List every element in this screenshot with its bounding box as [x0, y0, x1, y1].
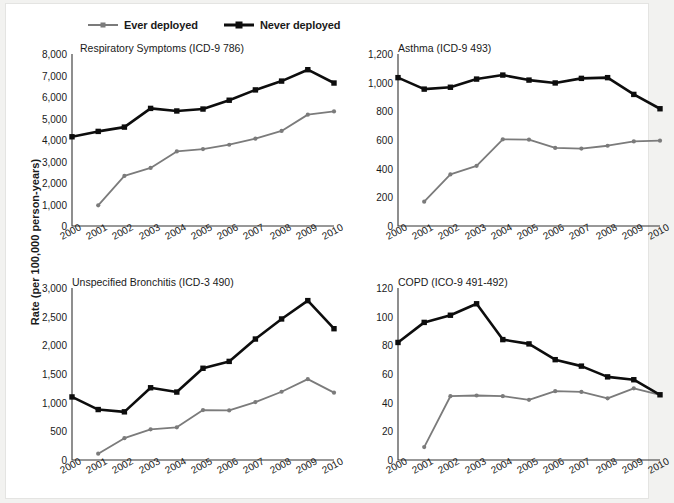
data-point-marker — [305, 298, 310, 303]
data-point-marker — [305, 67, 310, 72]
data-point-marker — [331, 80, 336, 85]
legend-item-never-deployed: Never deployed — [224, 19, 341, 31]
data-point-marker — [605, 374, 610, 379]
data-point-marker — [422, 200, 426, 204]
data-point-marker — [332, 109, 336, 113]
data-point-marker — [69, 134, 74, 139]
axis-lines — [398, 288, 660, 460]
data-point-marker — [606, 396, 610, 400]
data-point-marker — [122, 124, 127, 129]
data-point-marker — [553, 80, 558, 85]
data-point-marker — [306, 377, 310, 381]
data-point-marker — [631, 377, 636, 382]
data-point-marker — [96, 452, 100, 456]
legend-label-never-deployed: Never deployed — [260, 19, 341, 31]
chart-legend: Ever deployed Never deployed — [6, 14, 648, 36]
data-point-marker — [500, 337, 505, 342]
series-line — [424, 388, 660, 447]
series-line — [72, 301, 334, 412]
panel-title: COPD (ICO-9 491-492) — [398, 276, 508, 288]
data-point-marker — [148, 106, 153, 111]
data-point-marker — [306, 113, 310, 117]
data-point-marker — [149, 427, 153, 431]
data-point-marker — [122, 409, 127, 414]
data-point-marker — [448, 85, 453, 90]
data-point-marker — [148, 385, 153, 390]
data-point-marker — [69, 394, 74, 399]
data-point-marker — [175, 425, 179, 429]
data-point-marker — [579, 390, 583, 394]
data-point-marker — [253, 137, 257, 141]
data-point-marker — [657, 106, 662, 111]
data-point-marker — [605, 75, 610, 80]
data-point-marker — [606, 144, 610, 148]
data-point-marker — [526, 341, 531, 346]
data-point-marker — [422, 320, 427, 325]
axis-lines — [72, 288, 334, 460]
data-point-marker — [395, 75, 400, 80]
plot-area: 2000200120022003200420052006200720082009… — [28, 288, 350, 503]
panel-title: Respiratory Symptoms (ICD-9 786) — [80, 42, 244, 54]
data-point-marker — [253, 400, 257, 404]
series-line — [98, 379, 334, 454]
series-line — [98, 111, 334, 205]
data-point-marker — [175, 149, 179, 153]
data-point-marker — [200, 106, 205, 111]
data-point-marker — [422, 445, 426, 449]
legend-marker-never-deployed — [224, 20, 254, 30]
data-point-marker — [227, 143, 231, 147]
legend-label-ever-deployed: Ever deployed — [124, 19, 198, 31]
panel-title: Unspecified Bronchitis (ICD-3 490) — [72, 276, 234, 288]
data-point-marker — [201, 147, 205, 151]
plot-area: 2000200120022003200420052006200720082009… — [28, 54, 350, 272]
data-point-marker — [227, 98, 232, 103]
legend-square-marker-icon — [235, 22, 242, 29]
axis-lines — [72, 54, 334, 226]
data-point-marker — [500, 72, 505, 77]
data-point-marker — [579, 76, 584, 81]
data-point-marker — [253, 336, 258, 341]
data-point-marker — [553, 357, 558, 362]
data-point-marker — [96, 203, 100, 207]
data-point-marker — [475, 164, 479, 168]
data-point-marker — [201, 408, 205, 412]
data-point-marker — [122, 174, 126, 178]
data-point-marker — [253, 87, 258, 92]
data-point-marker — [579, 363, 584, 368]
data-point-marker — [122, 436, 126, 440]
data-point-marker — [475, 393, 479, 397]
data-point-marker — [527, 138, 531, 142]
data-point-marker — [527, 398, 531, 402]
data-point-marker — [526, 77, 531, 82]
data-point-marker — [631, 92, 636, 97]
data-point-marker — [501, 394, 505, 398]
legend-circle-marker-icon — [101, 23, 106, 28]
data-point-marker — [448, 394, 452, 398]
data-point-marker — [279, 316, 284, 321]
data-point-marker — [579, 147, 583, 151]
data-point-marker — [474, 301, 479, 306]
data-point-marker — [632, 139, 636, 143]
series-line — [424, 139, 660, 201]
data-point-marker — [149, 166, 153, 170]
data-point-marker — [658, 139, 662, 143]
data-point-marker — [553, 146, 557, 150]
data-point-marker — [96, 129, 101, 134]
data-point-marker — [632, 386, 636, 390]
data-point-marker — [96, 407, 101, 412]
data-point-marker — [501, 137, 505, 141]
data-point-marker — [227, 408, 231, 412]
data-point-marker — [553, 389, 557, 393]
data-point-marker — [657, 392, 662, 397]
legend-marker-ever-deployed — [88, 20, 118, 30]
data-point-marker — [331, 326, 336, 331]
data-point-marker — [174, 389, 179, 394]
data-point-marker — [174, 108, 179, 113]
data-point-marker — [280, 390, 284, 394]
data-point-marker — [279, 78, 284, 83]
series-line — [398, 304, 660, 395]
figure-canvas: Ever deployed Never deployed Rate (per 1… — [6, 4, 648, 498]
plot-area: 2000200120022003200420052006200720082009… — [354, 288, 674, 503]
data-point-marker — [448, 313, 453, 318]
data-point-marker — [200, 366, 205, 371]
